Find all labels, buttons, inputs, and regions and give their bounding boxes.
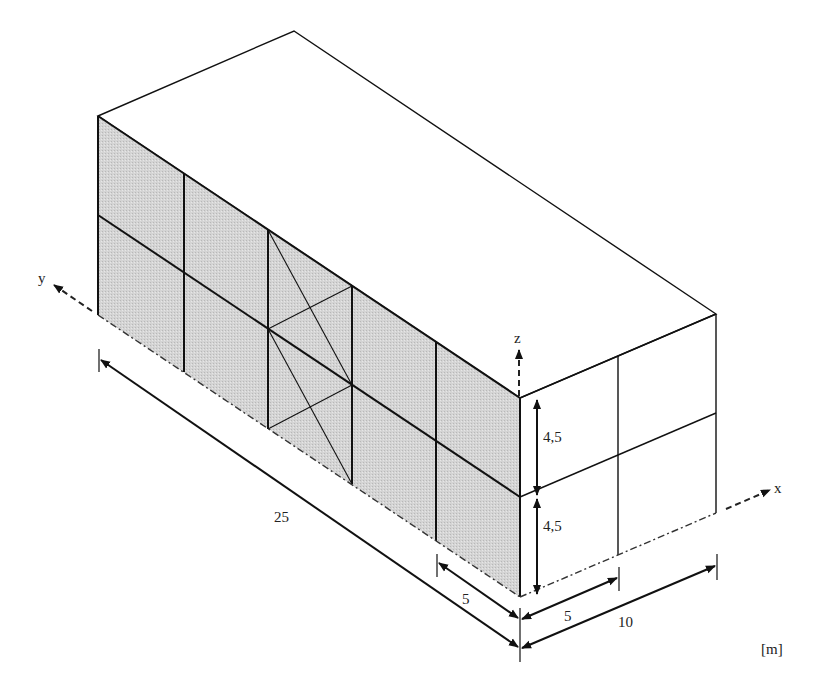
x-axis-label: x	[774, 480, 782, 496]
unit-label: [m]	[761, 641, 783, 657]
z-axis-label: z	[514, 330, 521, 346]
width-label: 10	[618, 614, 633, 630]
upper-story-height-label: 4,5	[543, 429, 562, 445]
building-frame-diagram: y x z 4,5 4,5 25 5 5 10	[0, 0, 814, 690]
gable-bay-label: 5	[564, 608, 572, 624]
x-axis-arrow	[726, 490, 770, 509]
y-axis-arrow	[54, 285, 92, 311]
end-bay-label: 5	[462, 591, 470, 607]
lower-story-height-label: 4,5	[543, 518, 562, 534]
length-label: 25	[274, 509, 289, 525]
y-axis-label: y	[38, 270, 46, 286]
